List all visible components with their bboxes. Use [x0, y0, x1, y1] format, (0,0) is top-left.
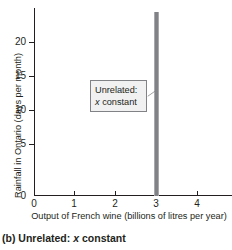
annotation-line-1: Unrelated: — [95, 84, 146, 96]
x-ticklabel-3: 3 — [146, 198, 166, 209]
data-series-vertical-line — [154, 12, 159, 196]
x-tick-1 — [74, 191, 75, 196]
caption-prefix: (b) — [2, 232, 15, 244]
x-tick-2 — [115, 191, 116, 196]
x-axis-line — [34, 195, 232, 196]
x-ticklabel-0: 0 — [24, 198, 44, 209]
annotation-line-2-rest: constant — [100, 97, 137, 107]
x-ticklabel-1: 1 — [64, 198, 84, 209]
x-tick-4 — [197, 191, 198, 196]
x-axis-title: Output of French wine (billions of litre… — [26, 210, 232, 222]
annotation-line-2: x constant — [95, 96, 146, 108]
y-tick-20 — [29, 42, 35, 43]
annotation-leader-line — [147, 91, 156, 97]
y-tick-10 — [29, 110, 35, 111]
x-ticklabel-2: 2 — [105, 198, 125, 209]
annotation-callout: Unrelated: x constant — [90, 80, 147, 112]
caption-suffix: constant — [82, 232, 126, 244]
figure-panel-b: 20 15 10 5 0 0 1 2 3 4 Unrelated: x cons… — [0, 0, 232, 250]
x-ticklabel-4: 4 — [187, 198, 207, 209]
figure-caption: (b) Unrelated: x constant — [2, 231, 126, 245]
y-axis-title: Rainfall in Ontario (days per month) — [12, 0, 25, 198]
y-tick-5 — [29, 144, 35, 145]
caption-text: Unrelated: — [18, 232, 70, 244]
y-axis-line — [34, 8, 35, 196]
y-tick-15 — [29, 76, 35, 77]
